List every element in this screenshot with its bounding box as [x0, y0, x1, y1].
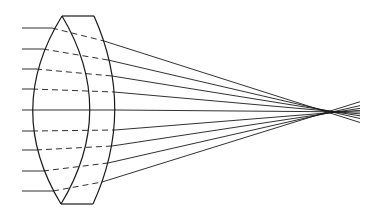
refracted-ray-inside-6	[32, 130, 115, 131]
lens-ray-diagram	[0, 0, 381, 216]
refracted-ray-inside-2	[43, 49, 108, 60]
refracted-ray-inside-4	[32, 89, 114, 92]
refracted-ray-inside-9	[53, 182, 102, 191]
rays	[22, 28, 360, 191]
emergent-ray-8	[108, 106, 360, 163]
refracted-ray-inside-8	[43, 163, 108, 171]
refracted-ray-inside-3	[36, 69, 112, 76]
refracted-ray-inside-1	[52, 28, 104, 41]
refracted-ray-inside-7	[36, 146, 112, 150]
